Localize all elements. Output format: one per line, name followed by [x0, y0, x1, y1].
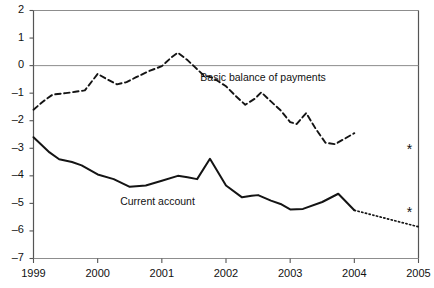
- chart-container: ** 210–1–2–3–4–5–6–719992000200120022003…: [0, 0, 434, 288]
- y-axis-tick-label: –5: [2, 196, 24, 208]
- y-axis-tick-label: –6: [2, 223, 24, 235]
- y-axis-tick-label: –3: [2, 141, 24, 153]
- series-label-current-account: Current account: [120, 195, 195, 207]
- y-axis-tick-label: 2: [2, 3, 24, 15]
- x-axis-tick-label: 2004: [332, 267, 376, 279]
- y-axis-tick-label: –7: [2, 251, 24, 263]
- y-axis-tick-label: –2: [2, 113, 24, 125]
- x-axis-tick-label: 2003: [268, 267, 312, 279]
- y-axis-tick-label: –4: [2, 168, 24, 180]
- chart-plot-area: **: [0, 0, 434, 288]
- x-axis-tick-label: 2005: [397, 267, 434, 279]
- series-label-basic-balance-of-payments: Basic balance of payments: [200, 71, 326, 83]
- x-axis-tick-label: 2002: [204, 267, 248, 279]
- x-axis-tick-label: 2001: [140, 267, 184, 279]
- series-line-basic-balance-of-payments: [34, 53, 355, 144]
- x-axis-tick-label: 1999: [12, 267, 56, 279]
- y-axis-tick-label: 1: [2, 31, 24, 43]
- y-axis-tick-label: –1: [2, 86, 24, 98]
- x-axis-tick-label: 2000: [76, 267, 120, 279]
- y-axis-tick-label: 0: [2, 58, 24, 70]
- forecast-marker-upper: *: [407, 141, 413, 157]
- forecast-marker-lower: *: [407, 204, 413, 220]
